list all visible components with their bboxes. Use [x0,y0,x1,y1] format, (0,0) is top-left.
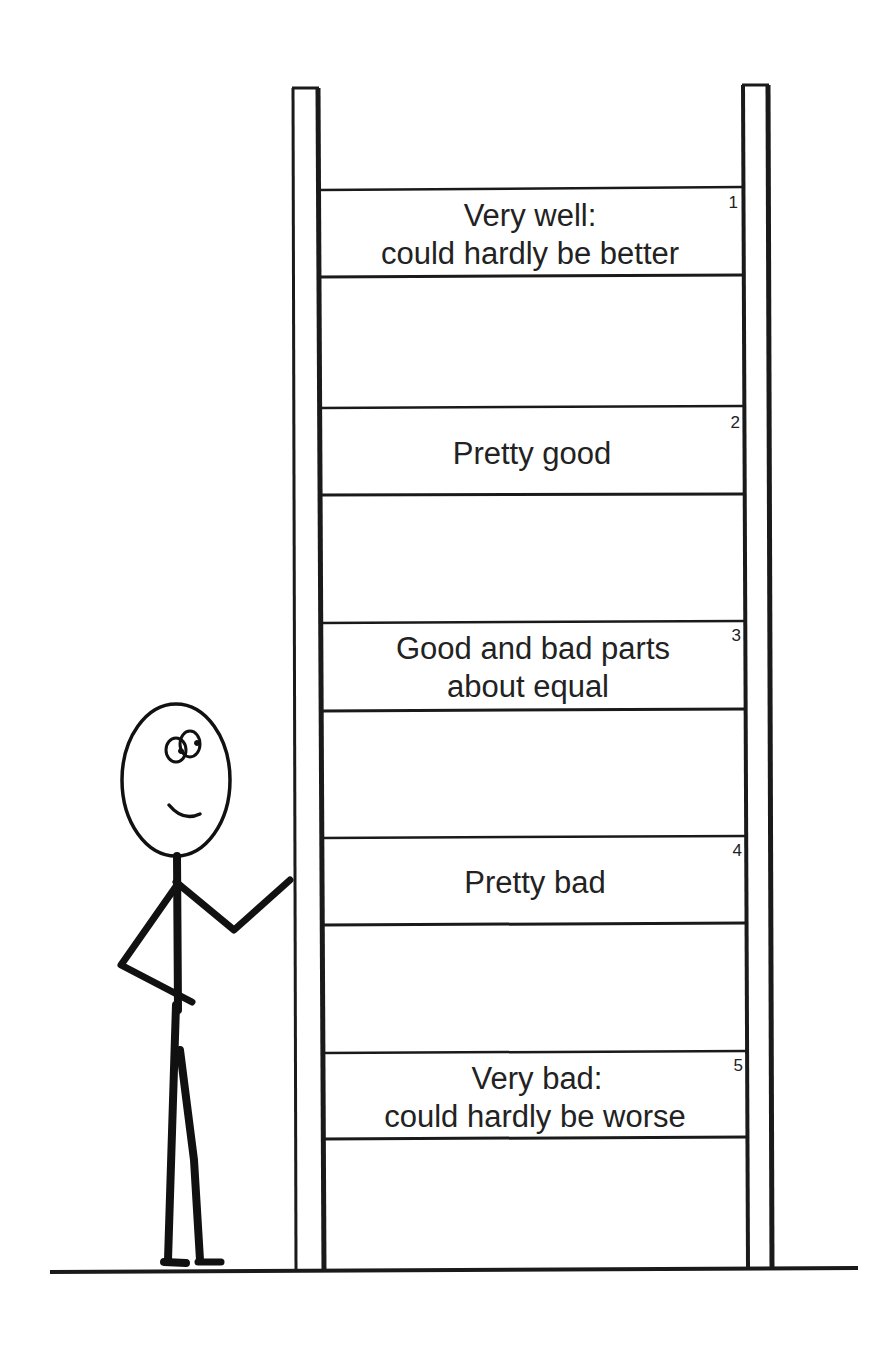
rung-1-label-line-2: could hardly be better [381,236,679,271]
rung-1: Very well: could hardly be better 1 [319,187,744,277]
rung-3-label-line-1: Good and bad parts [396,631,670,666]
rung-5-label-line-1: Very bad: [472,1061,603,1096]
rung-4-label: Pretty bad [464,865,605,900]
left-foot [164,1262,186,1263]
rung-3: Good and bad parts about equal 3 [321,621,746,711]
rung-5-number: 5 [734,1056,743,1075]
rung-4-number: 4 [733,841,742,860]
head [122,704,230,856]
smile [169,805,200,817]
rung-2-number: 2 [731,413,740,432]
rung-3-label-line-2: about equal [447,669,609,704]
ladder-right-rail [742,85,772,1268]
arm-reaching [176,880,290,930]
rung-5: Very bad: could hardly be worse 5 [323,1051,748,1139]
ground-line [50,1268,858,1272]
rung-1-number: 1 [729,193,738,212]
ladder-left-rail [292,88,324,1270]
stick-figure [121,704,290,1263]
rung-1-label-line-1: Very well: [464,198,597,233]
rung-5-label-line-2: could hardly be worse [384,1099,686,1134]
rung-2-label: Pretty good [453,436,612,471]
ladder-diagram: Very well: could hardly be better 1 Pret… [0,0,884,1353]
left-leg [168,1005,176,1260]
rung-3-number: 3 [732,626,741,645]
right-leg [180,1050,200,1260]
rung-4: Pretty bad 4 [322,836,747,925]
eyes-icon [166,731,200,762]
rung-2: Pretty good 2 [320,406,745,495]
